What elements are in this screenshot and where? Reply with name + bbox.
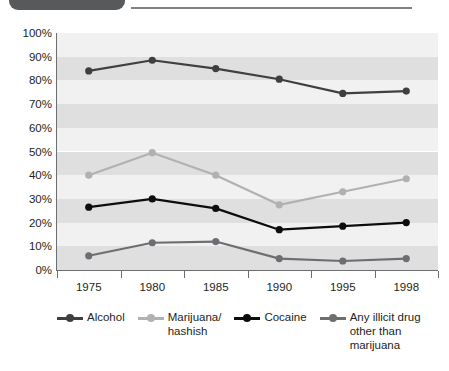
x-axis-tick-label: 1995: [308, 281, 378, 293]
legend-marker-icon: [320, 312, 346, 325]
legend-item-2[interactable]: Marijuana/ hashish: [138, 310, 222, 338]
legend-marker-icon: [57, 312, 83, 325]
data-point: [276, 201, 283, 208]
y-axis-tick-label: 90%: [2, 51, 52, 63]
legend-label: Marijuana/ hashish: [168, 310, 222, 338]
data-point: [85, 252, 92, 259]
y-axis-tick-label: 40%: [2, 169, 52, 181]
y-axis-tick-label: 80%: [2, 74, 52, 86]
x-axis-tick: [311, 271, 312, 278]
data-point: [212, 172, 219, 179]
data-point: [212, 238, 219, 245]
x-axis-tick-label: 1975: [54, 281, 124, 293]
series-line: [89, 242, 407, 261]
data-point: [85, 204, 92, 211]
data-point: [339, 223, 346, 230]
data-point: [339, 90, 346, 97]
y-axis-tick-label: 50%: [2, 146, 52, 158]
y-axis-tick-label: 20%: [2, 217, 52, 229]
legend-item-3[interactable]: Cocaine: [234, 310, 306, 325]
y-axis-tick-label: 60%: [2, 122, 52, 134]
data-point: [149, 57, 156, 64]
legend-marker-icon: [234, 312, 260, 325]
legend-marker-icon: [138, 312, 164, 325]
x-axis-tick: [121, 271, 122, 278]
x-axis-tick-label: 1990: [244, 281, 314, 293]
series-1: [85, 57, 410, 97]
y-axis-tick-label: 10%: [2, 240, 52, 252]
data-point: [212, 205, 219, 212]
legend-label: Cocaine: [264, 310, 306, 324]
data-series-layer: [57, 33, 438, 270]
y-axis-tick-label: 100%: [2, 27, 52, 39]
chart-legend: AlcoholMarijuana/ hashishCocaineAny illi…: [57, 310, 449, 371]
series-2: [85, 149, 410, 208]
data-point: [149, 195, 156, 202]
legend-label: Alcohol: [87, 310, 125, 324]
series-3: [85, 195, 410, 233]
y-axis-tick-label: 0%: [2, 264, 52, 276]
series-line: [89, 60, 407, 93]
data-point: [403, 175, 410, 182]
x-axis-tick: [57, 271, 58, 278]
data-point: [149, 149, 156, 156]
data-point: [276, 226, 283, 233]
x-axis-tick: [248, 271, 249, 278]
x-axis-tick: [375, 271, 376, 278]
x-axis-tick-label: 1985: [181, 281, 251, 293]
x-axis-tick: [438, 271, 439, 278]
data-point: [276, 255, 283, 262]
series-4: [85, 238, 410, 265]
data-point: [339, 257, 346, 264]
x-axis-tick-label: 1998: [371, 281, 441, 293]
y-axis-labels: 100%90%80%70%60%50%40%30%20%10%0%: [0, 0, 52, 371]
y-axis-tick-label: 30%: [2, 193, 52, 205]
series-line: [89, 153, 407, 205]
data-point: [149, 239, 156, 246]
data-point: [403, 87, 410, 94]
data-point: [85, 67, 92, 74]
x-axis-tick-label: 1980: [117, 281, 187, 293]
y-axis-tick-label: 70%: [2, 98, 52, 110]
legend-item-4[interactable]: Any illicit drug other than marijuana: [320, 310, 421, 352]
series-line: [89, 199, 407, 230]
data-point: [403, 219, 410, 226]
legend-item-1[interactable]: Alcohol: [57, 310, 125, 325]
data-point: [212, 65, 219, 72]
legend-label: Any illicit drug other than marijuana: [350, 310, 421, 352]
data-point: [339, 188, 346, 195]
x-axis-tick: [184, 271, 185, 278]
data-point: [85, 172, 92, 179]
data-point: [403, 255, 410, 262]
data-point: [276, 76, 283, 83]
